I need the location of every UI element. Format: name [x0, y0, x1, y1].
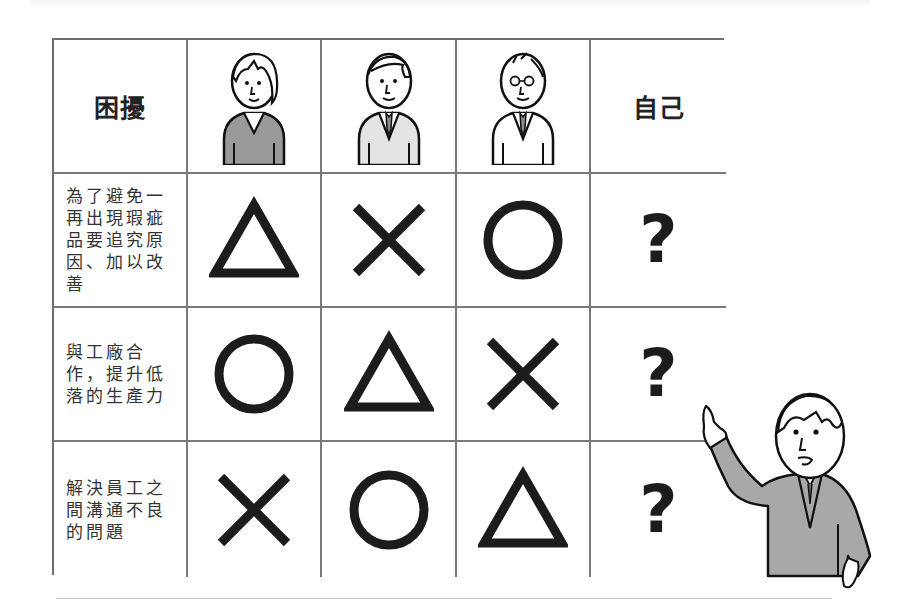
triangle-icon [344, 329, 434, 419]
row-1-person-1-mark [188, 174, 322, 308]
row-1-label-cell: 為了避免一再出現瑕疵品要追究原因、加以改善 [54, 174, 188, 308]
row-2-person-1-mark [188, 308, 322, 442]
question-mark-icon: ? [639, 477, 677, 543]
circle-icon [478, 195, 568, 285]
woman-avatar-icon [214, 47, 294, 165]
triangle-icon [209, 195, 299, 285]
row-2-label-cell: 與工廠合作，提升低落的生產力 [54, 308, 188, 442]
cross-icon [209, 465, 299, 555]
comparison-table: 困擾 [52, 38, 724, 575]
header-corner-cell: 困擾 [54, 40, 188, 174]
footer-divider [56, 598, 832, 599]
circle-icon [344, 465, 434, 555]
header-person-3 [457, 40, 591, 174]
circle-icon [209, 329, 299, 419]
self-label: 自己 [633, 88, 685, 124]
header-person-2 [322, 40, 457, 174]
pointing-man-illustration [698, 376, 878, 590]
man-vest-avatar-icon [349, 47, 429, 165]
cross-icon [344, 195, 434, 285]
cross-icon [478, 329, 568, 419]
row-3-person-3-mark [457, 442, 591, 577]
triangle-icon [478, 465, 568, 555]
question-mark-icon: ? [639, 341, 677, 407]
corner-label: 困擾 [94, 88, 146, 124]
question-mark-icon: ? [639, 207, 677, 273]
row-2-person-3-mark [457, 308, 591, 442]
row-1-person-3-mark [457, 174, 591, 308]
page-top-edge [30, 0, 870, 6]
row-1-self-mark: ? [591, 174, 726, 308]
row-1-person-2-mark [322, 174, 457, 308]
row-2-label: 與工廠合作，提升低落的生產力 [54, 341, 186, 407]
row-1-label: 為了避免一再出現瑕疵品要追究原因、加以改善 [54, 185, 186, 295]
row-3-person-2-mark [322, 442, 457, 577]
row-2-person-2-mark [322, 308, 457, 442]
row-3-label: 解決員工之間溝通不良的問題 [54, 477, 186, 543]
row-3-label-cell: 解決員工之間溝通不良的問題 [54, 442, 188, 577]
header-person-1 [188, 40, 322, 174]
row-3-person-1-mark [188, 442, 322, 577]
header-self-cell: 自己 [591, 40, 726, 174]
man-glasses-avatar-icon [483, 47, 563, 165]
